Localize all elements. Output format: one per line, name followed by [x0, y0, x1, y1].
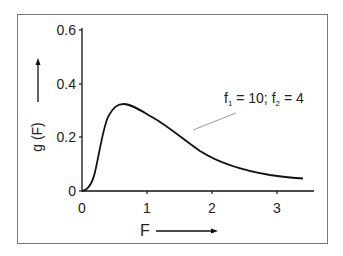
y-tick-label: 0	[68, 183, 76, 199]
y-axis-label: g (F)	[29, 122, 45, 152]
x-tick-label: 0	[78, 200, 86, 216]
x-tick-label: 1	[143, 200, 151, 216]
y-axis-arrowhead-icon	[36, 58, 41, 65]
density-curve	[82, 104, 303, 191]
y-tick-label: 0.6	[57, 22, 77, 38]
y-tick-label: 0.4	[57, 76, 77, 92]
annotation-text: f1 = 10; f2 = 4	[224, 90, 304, 108]
x-axis-label: F	[140, 222, 150, 239]
x-tick-label: 3	[273, 200, 281, 216]
y-tick-label: 0.2	[57, 129, 77, 145]
x-axis-arrowhead-icon	[211, 229, 218, 234]
x-tick-label: 2	[208, 200, 216, 216]
chart: 0.6 0.4 0.2 0 0 1 2 3 g (F) F f1 = 10; f…	[0, 0, 343, 256]
annotation-leader	[193, 113, 236, 130]
